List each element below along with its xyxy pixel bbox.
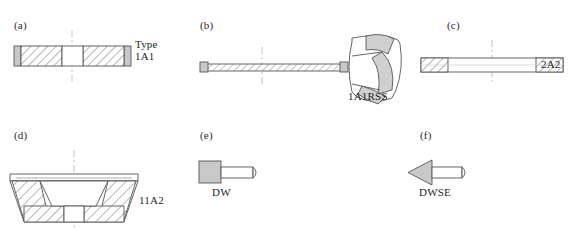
blade-cap-right-b bbox=[340, 62, 348, 72]
cup-base-right-d bbox=[84, 206, 124, 222]
grinding-wheel-types-figure: (a) (b) (c) (d) (e) (f) Type 1A1 1A1RSS … bbox=[0, 0, 576, 230]
dw-tip-e bbox=[253, 167, 256, 178]
wheel-core-cap-left-a bbox=[14, 46, 21, 66]
abrasive-section-left-a bbox=[21, 46, 62, 66]
panel-d-artwork bbox=[10, 150, 138, 228]
type-label-f: DWSE bbox=[419, 186, 451, 199]
abrasive-section-right-a bbox=[83, 46, 124, 66]
type-label-a-line2: 1A1 bbox=[135, 50, 158, 62]
panel-letter-e: (e) bbox=[200, 129, 213, 141]
cup-recess-cavity-d bbox=[40, 181, 108, 206]
type-label-b: 1A1RSS bbox=[348, 90, 388, 103]
dwse-shaft-f bbox=[432, 167, 462, 178]
cup-base-left-d bbox=[24, 206, 64, 222]
cup-top-flange-d bbox=[10, 174, 138, 181]
wheel-core-cap-right-a bbox=[124, 46, 131, 66]
type-label-a-line1: Type bbox=[135, 38, 158, 50]
figure-artwork bbox=[0, 0, 576, 230]
blade-cap-left-b bbox=[200, 62, 208, 72]
panel-e-artwork bbox=[199, 161, 256, 183]
panel-letter-c: (c) bbox=[447, 19, 460, 31]
bore-gap-a bbox=[62, 46, 83, 66]
type-label-a: Type 1A1 bbox=[135, 38, 158, 62]
blade-body-b bbox=[206, 64, 342, 71]
cup-bore-d bbox=[64, 206, 84, 222]
panel-f-artwork bbox=[408, 160, 465, 185]
dw-block-e bbox=[199, 161, 221, 183]
panel-letter-f: (f) bbox=[420, 129, 432, 141]
panel-letter-a: (a) bbox=[14, 19, 27, 31]
type-label-d: 11A2 bbox=[139, 194, 164, 207]
panel-a-artwork bbox=[14, 30, 131, 82]
dwse-arrowhead-f bbox=[408, 160, 432, 185]
panel-letter-d: (d) bbox=[14, 129, 27, 141]
type-label-e: DW bbox=[212, 186, 231, 199]
dwse-tip-f bbox=[462, 167, 465, 178]
type-label-c: 2A2 bbox=[541, 58, 561, 71]
panel-letter-b: (b) bbox=[200, 19, 213, 31]
dw-shaft-e bbox=[221, 167, 253, 178]
